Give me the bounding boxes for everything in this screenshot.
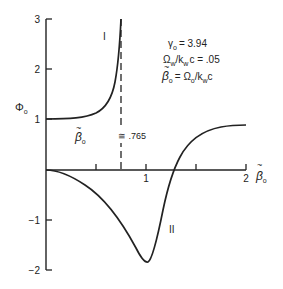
y-tick-m2: −2 — [29, 265, 41, 276]
x-tick-1: 1 — [143, 173, 149, 184]
y-tick-2: 2 — [34, 64, 40, 75]
x-ticks — [96, 164, 246, 170]
x-axis-label: βo ~ — [255, 160, 267, 184]
curve-I — [46, 19, 121, 119]
y-axis-label: Φo — [15, 101, 28, 115]
svg-text:~: ~ — [257, 160, 262, 170]
curve-II-label: II — [169, 224, 175, 235]
y-tick-m1: −1 — [29, 215, 41, 226]
param-gamma: γo= 3.94 — [168, 38, 207, 51]
svg-text:βo: βo — [74, 130, 86, 145]
svg-text:≅ .765: ≅ .765 — [118, 131, 146, 141]
asymptote-label: ~ βo ≅ .765 — [74, 123, 164, 145]
chart: 3 2 1 −1 −2 1 2 Φo βo ~ ~ βo ≅ .765 I II… — [0, 0, 283, 289]
svg-text:βo: βo — [255, 169, 267, 184]
curve-I-label: I — [103, 31, 106, 42]
y-tick-3: 3 — [34, 14, 40, 25]
param-beta: βo= Ωo/kwc — [161, 69, 213, 84]
parameter-block: γo= 3.94 Ωw/kwc = .05 ~ βo= Ωo/kwc — [161, 38, 220, 84]
y-tick-1: 1 — [34, 114, 40, 125]
y-ticks — [46, 19, 52, 270]
param-omega: Ωw/kwc = .05 — [163, 54, 220, 67]
curve-II — [46, 125, 246, 262]
x-tick-2: 2 — [243, 173, 249, 184]
